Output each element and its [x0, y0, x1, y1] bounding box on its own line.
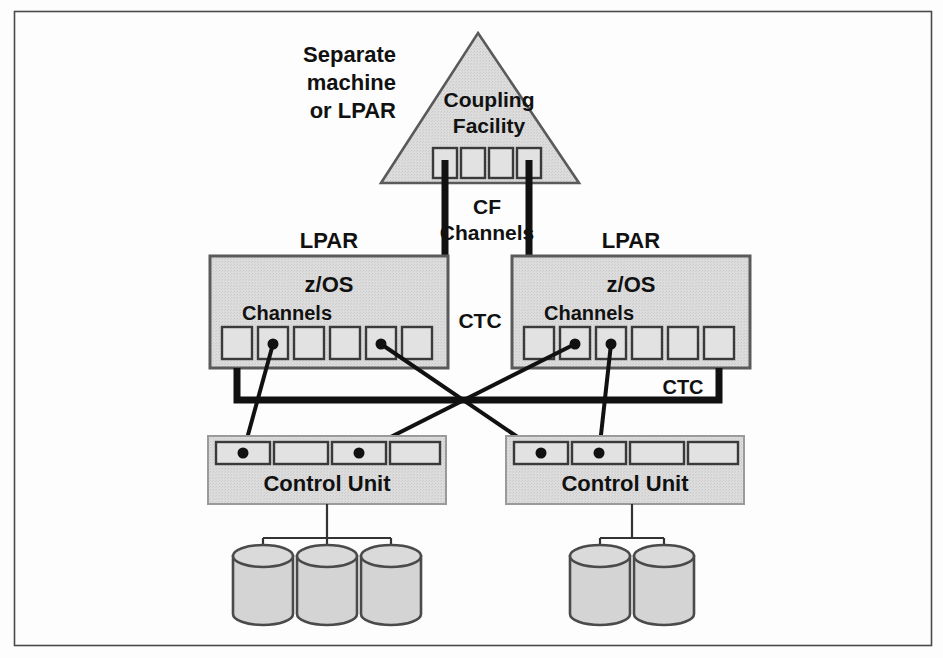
dot-cu-right-p0 — [536, 448, 547, 459]
control-unit-right-ports — [514, 442, 738, 464]
lpar-left-channels-label: Channels — [242, 302, 332, 324]
lpar-left-channel-0[interactable] — [222, 327, 252, 359]
control-unit-right-label: Control Unit — [561, 471, 689, 496]
cu-left-port-3[interactable] — [390, 442, 440, 464]
dot-lpar-left-ch4 — [376, 339, 387, 350]
figure-canvas: Separate machine or LPAR Coupling Facili… — [0, 0, 943, 658]
lpar-right-channel-4[interactable] — [668, 327, 698, 359]
separate-machine-label-line1: Separate — [303, 42, 396, 67]
dot-cu-right-p1 — [594, 448, 605, 459]
lpar-right-channel-3[interactable] — [632, 327, 662, 359]
cu-left-port-1[interactable] — [274, 442, 328, 464]
separate-machine-label-line3: or LPAR — [310, 98, 396, 123]
lpar-right-channels-label: Channels — [544, 302, 634, 324]
lpar-left-label: LPAR — [300, 228, 358, 253]
disk-right-0[interactable] — [570, 545, 630, 625]
lpar-right-label: LPAR — [602, 228, 660, 253]
coupling-facility-label-line2: Facility — [453, 114, 526, 137]
sysplex-diagram: Separate machine or LPAR Coupling Facili… — [0, 0, 943, 658]
disk-left-0[interactable] — [233, 545, 293, 625]
disk-left-2[interactable] — [361, 545, 421, 625]
dot-cu-left-p2 — [354, 448, 365, 459]
lpar-left-os-label: z/OS — [305, 272, 354, 297]
disk-right-1[interactable] — [634, 545, 694, 625]
disk-left-1[interactable] — [297, 545, 357, 625]
dot-cu-left-p0 — [238, 448, 249, 459]
control-unit-left-label: Control Unit — [263, 471, 391, 496]
lpar-right-channel-0[interactable] — [524, 327, 554, 359]
control-unit-left-ports — [216, 442, 440, 464]
dot-lpar-left-ch1 — [268, 339, 279, 350]
lpar-left-channel-3[interactable] — [330, 327, 360, 359]
cf-channel-port-1[interactable] — [461, 148, 485, 178]
cf-channel-port-2[interactable] — [489, 148, 513, 178]
coupling-facility-label-line1: Coupling — [444, 88, 535, 111]
lpar-right-channel-5[interactable] — [704, 327, 734, 359]
cu-right-port-2[interactable] — [630, 442, 684, 464]
ctc-right-label: CTC — [662, 376, 703, 398]
lpar-left-channel-5[interactable] — [402, 327, 432, 359]
cf-channels-label-line1: CF — [473, 195, 501, 218]
lpar-right-os-label: z/OS — [607, 272, 656, 297]
cu-right-port-3[interactable] — [688, 442, 738, 464]
lpar-left-channel-2[interactable] — [294, 327, 324, 359]
dot-lpar-right-ch1 — [570, 339, 581, 350]
cf-channels-label-line2: Channels — [440, 221, 535, 244]
ctc-center-label: CTC — [458, 309, 501, 332]
separate-machine-label-line2: machine — [307, 70, 396, 95]
dot-lpar-right-ch2 — [606, 339, 617, 350]
